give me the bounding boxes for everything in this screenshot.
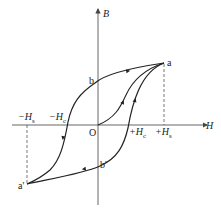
point-a-label: a (167, 58, 171, 68)
ascending-branch (27, 63, 164, 184)
neg-hs-label: −Hs (18, 112, 35, 125)
neg-hc-label: −Hc (49, 112, 66, 125)
diagram-canvas (0, 0, 221, 215)
point-b-prime-label: b' (100, 160, 107, 170)
hysteresis-diagram: B H O a a' b b' −Hs −Hc +Hc +Hs (0, 0, 221, 215)
origin-label: O (89, 128, 96, 138)
point-a-prime-label: a' (18, 181, 24, 191)
b-axis-label: B (103, 9, 109, 19)
point-b-label: b (89, 76, 94, 86)
pos-hc-label: +Hc (129, 127, 146, 140)
h-axis-label: H (206, 121, 213, 131)
pos-hs-label: +Hs (155, 127, 172, 140)
